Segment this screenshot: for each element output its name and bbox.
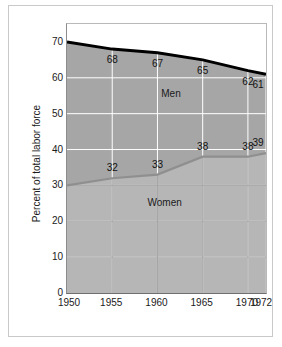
men-value-label-1960: 67	[152, 59, 163, 69]
chart-frame: 010203040506070 Percent of total labor f…	[8, 5, 273, 337]
women-value-label-1972: 39	[252, 138, 263, 148]
men-value-label-1965: 65	[197, 66, 208, 76]
y-tick-50: 50	[39, 109, 63, 119]
series-label-men: Men	[161, 89, 180, 99]
plot-area: 68676562613233383839MenWomen	[66, 23, 267, 294]
x-tick-1950: 1950	[58, 297, 80, 309]
series-label-women: Women	[148, 198, 182, 208]
y-tick-30: 30	[39, 180, 63, 190]
x-tick-1960: 1960	[145, 297, 167, 309]
x-axis-tick-labels: 195019551960196519701972	[66, 297, 267, 313]
women-value-label-1965: 38	[197, 142, 208, 152]
y-tick-70: 70	[39, 37, 63, 47]
x-tick-1955: 1955	[100, 297, 122, 309]
women-value-label-1960: 33	[152, 160, 163, 170]
men-value-label-1972: 61	[252, 80, 263, 90]
y-tick-40: 40	[39, 145, 63, 155]
women-value-label-1955: 32	[107, 163, 118, 173]
men-value-label-1955: 68	[107, 55, 118, 65]
x-tick-1972: 1972	[250, 297, 272, 309]
x-tick-1965: 1965	[191, 297, 213, 309]
area-chart-graphic	[67, 24, 266, 293]
y-tick-60: 60	[39, 73, 63, 83]
y-axis-title: Percent of total labor force	[31, 74, 42, 254]
chart-page: 010203040506070 Percent of total labor f…	[0, 0, 282, 347]
y-tick-10: 10	[39, 252, 63, 262]
plot-inner: 68676562613233383839MenWomen	[67, 24, 266, 293]
y-tick-20: 20	[39, 216, 63, 226]
